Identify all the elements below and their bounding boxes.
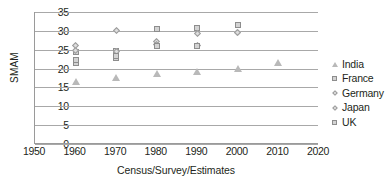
plot-area bbox=[34, 12, 318, 144]
data-point-uk bbox=[194, 43, 200, 49]
legend-item-label: UK bbox=[342, 117, 356, 128]
legend-item-uk[interactable]: UK bbox=[330, 115, 390, 130]
x-axis-tick-label: 2010 bbox=[257, 146, 297, 157]
legend-item-japan[interactable]: Japan bbox=[330, 101, 390, 116]
diamond-icon bbox=[330, 89, 339, 98]
legend-item-india[interactable]: India bbox=[330, 57, 390, 72]
x-axis-title: Census/Survey/Estimates bbox=[34, 164, 318, 176]
x-axis-tick-label: 2020 bbox=[298, 146, 338, 157]
gridline bbox=[35, 12, 318, 13]
data-point-india bbox=[193, 68, 201, 75]
data-point-india bbox=[153, 70, 161, 77]
data-point-uk bbox=[154, 43, 160, 49]
y-axis-title: SMAM bbox=[9, 38, 20, 98]
data-point-uk bbox=[113, 53, 119, 59]
x-axis-tick-label: 2000 bbox=[217, 146, 257, 157]
x-axis-tick-label: 1990 bbox=[176, 146, 216, 157]
gridline bbox=[35, 31, 318, 32]
data-point-germany bbox=[113, 27, 120, 34]
diamond-icon bbox=[330, 103, 339, 112]
x-axis-tick-label: 1960 bbox=[55, 146, 95, 157]
gridline bbox=[35, 106, 318, 107]
legend: IndiaFranceGermanyJapanUK bbox=[330, 57, 390, 130]
data-point-india bbox=[274, 59, 282, 66]
x-axis-tick-label: 1970 bbox=[95, 146, 135, 157]
legend-item-germany[interactable]: Germany bbox=[330, 86, 390, 101]
x-axis-tick-label: 1950 bbox=[14, 146, 54, 157]
gridline bbox=[35, 125, 318, 126]
legend-item-france[interactable]: France bbox=[330, 72, 390, 87]
scatter-chart: SMAM 05101520253035 19501960197019801990… bbox=[0, 0, 391, 187]
data-point-france bbox=[154, 26, 160, 32]
square-icon bbox=[330, 118, 339, 127]
legend-item-label: Germany bbox=[342, 88, 384, 99]
x-axis-tick-label: 1980 bbox=[136, 146, 176, 157]
gridline bbox=[35, 87, 318, 88]
data-point-india bbox=[112, 74, 120, 81]
legend-item-label: India bbox=[342, 59, 364, 70]
gridline bbox=[35, 69, 318, 70]
data-point-uk bbox=[73, 57, 79, 63]
data-point-india bbox=[72, 78, 80, 85]
legend-item-label: France bbox=[342, 73, 373, 84]
square-icon bbox=[330, 74, 339, 83]
triangle-icon bbox=[330, 60, 339, 69]
data-point-india bbox=[234, 65, 242, 72]
data-point-uk bbox=[235, 22, 241, 28]
legend-item-label: Japan bbox=[342, 102, 370, 113]
